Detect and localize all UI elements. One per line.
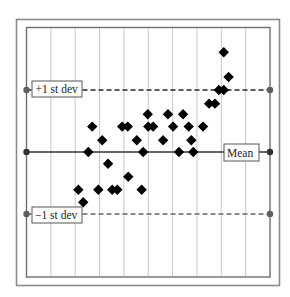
diamond-marker [93,185,103,195]
diamond-marker [183,121,193,131]
diamond-marker [143,109,153,119]
plus-one-stdev-text: +1 st dev [36,83,79,95]
plus-one-stdev-label: +1 st dev [32,81,82,97]
diamond-marker [168,121,178,131]
diamond-marker [83,147,93,157]
diamond-marker [97,135,107,145]
minus-one-stdev-label: −1 st dev [32,207,82,223]
diamond-marker [136,185,146,195]
line-endpoint-dot [267,149,273,155]
mean-label: Mean [224,144,259,161]
diamond-marker [174,147,184,157]
line-endpoint-dot [267,87,273,93]
diamond-marker [219,47,229,57]
line-endpoint-dot [267,211,273,217]
line-endpoint-dot [23,87,29,93]
diamond-marker [198,121,208,131]
line-endpoint-dot [23,211,29,217]
diamond-marker [158,135,168,145]
diamond-marker [186,135,196,145]
minus-one-stdev-text: −1 st dev [35,209,78,221]
diamond-marker [87,121,97,131]
diamond-marker [78,197,88,207]
diamond-marker [132,135,142,145]
control-chart: +1 st dev Mean −1 st dev [0,0,290,297]
diamond-marker [178,109,188,119]
diamond-marker [138,147,148,157]
data-markers [73,47,234,207]
diamond-marker [163,109,173,119]
diamond-marker [210,98,220,108]
diamond-marker [103,159,113,169]
diamond-marker [123,172,133,182]
mean-text: Mean [227,147,253,159]
diamond-marker [223,72,233,82]
line-endpoint-dot [23,149,29,155]
